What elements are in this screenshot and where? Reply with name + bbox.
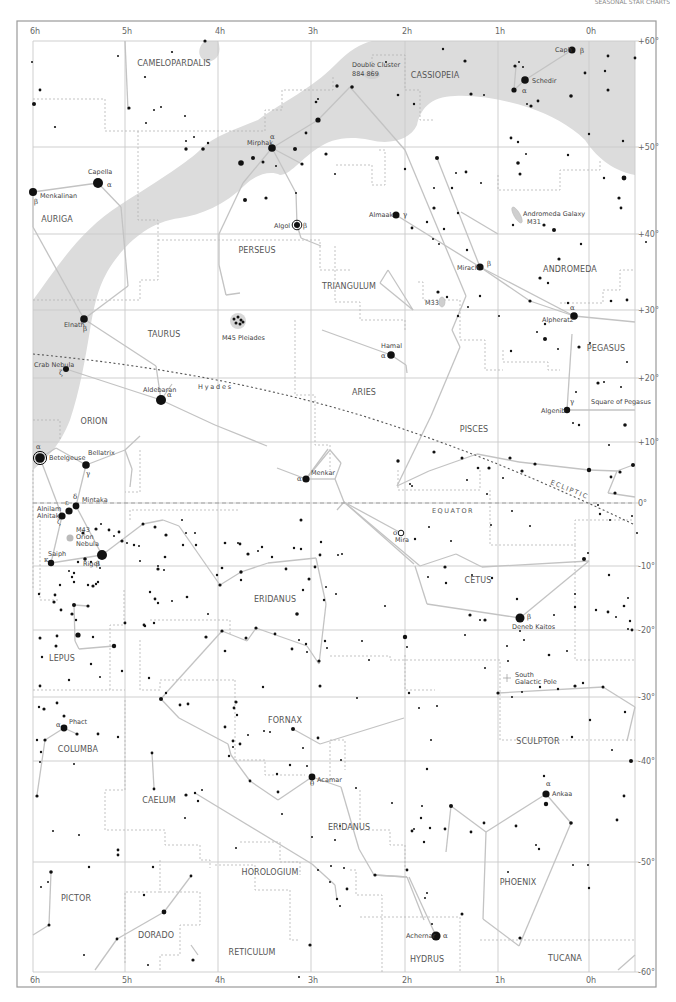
star (411, 485, 413, 487)
star (92, 636, 94, 638)
star (645, 241, 647, 243)
star (113, 535, 115, 537)
star (203, 39, 206, 42)
star (496, 691, 499, 694)
star (510, 137, 513, 140)
star (73, 581, 75, 583)
star (70, 612, 73, 615)
constellation-line (608, 471, 617, 493)
star (77, 561, 79, 563)
star (340, 759, 342, 761)
star (224, 650, 227, 653)
star (403, 635, 407, 639)
star (224, 542, 227, 545)
star (142, 523, 145, 526)
star (613, 491, 616, 494)
star (631, 515, 633, 517)
star (171, 51, 173, 53)
constellation-name: PICTOR (61, 894, 91, 903)
star (139, 560, 141, 562)
star (451, 187, 453, 189)
star (157, 602, 159, 604)
star (320, 541, 322, 543)
star (543, 337, 547, 341)
star (319, 685, 322, 688)
star (547, 282, 549, 284)
star (78, 834, 80, 836)
named-star: Alnitakζ (37, 512, 66, 526)
star (498, 315, 500, 317)
star (384, 605, 386, 607)
ra-label-bottom: 0h (586, 976, 596, 985)
dec-label: -10° (638, 562, 655, 571)
star (517, 141, 519, 143)
star (232, 746, 234, 748)
constellation-line (396, 215, 480, 267)
star (39, 89, 42, 92)
constellation-name: COLUMBA (58, 745, 99, 754)
star (238, 160, 244, 166)
star (442, 48, 444, 50)
star (466, 249, 468, 251)
star (567, 154, 569, 156)
star (239, 570, 242, 573)
constellation-line (179, 718, 228, 744)
star (397, 94, 400, 97)
star (194, 532, 196, 534)
star (595, 609, 597, 611)
constellation-name: CAMELOPARDALIS (137, 59, 211, 68)
constellation-line (268, 558, 316, 563)
constellation-name: PERSEUS (238, 246, 275, 255)
star (184, 793, 187, 796)
constellation-name: ARIES (352, 388, 376, 397)
deep-sky-object: M43OrionNebula (67, 526, 99, 548)
star (163, 569, 165, 571)
star (295, 192, 297, 194)
star (97, 733, 100, 736)
star (90, 663, 92, 665)
star (116, 938, 119, 941)
constellation-name: ERIDANUS (328, 823, 370, 832)
star (450, 540, 452, 542)
constellation-boundary (105, 700, 135, 830)
star (516, 161, 520, 165)
constellation-line (130, 469, 132, 487)
star (465, 171, 468, 174)
star (289, 764, 291, 766)
star (127, 106, 130, 109)
star (171, 600, 173, 602)
star (433, 187, 435, 189)
star (461, 457, 464, 460)
bayer-letter: α (570, 304, 575, 312)
star (618, 470, 621, 473)
star (235, 322, 238, 325)
star (237, 316, 240, 319)
star (300, 519, 303, 522)
star-icon (542, 790, 549, 797)
star (118, 531, 121, 534)
star (224, 726, 227, 729)
star (97, 581, 99, 583)
star-name-label: Capella (88, 168, 112, 176)
ra-label-top: 1h (495, 27, 505, 36)
constellation-boundary (130, 510, 240, 520)
constellation-line (341, 787, 359, 849)
constellation-line (397, 471, 429, 486)
star (324, 152, 327, 155)
star (329, 881, 331, 883)
star-name-label: Mirach (457, 264, 479, 272)
named-star: Ankaaα (542, 780, 572, 798)
star (409, 483, 411, 485)
bayer-letter: β (83, 325, 87, 333)
star (484, 667, 486, 669)
star (319, 554, 322, 557)
star (536, 331, 538, 333)
star (308, 943, 311, 946)
ra-label-bottom: 5h (122, 976, 132, 985)
star (432, 238, 434, 240)
constellation-line (156, 366, 161, 400)
deep-sky-object: Hyades (198, 383, 233, 391)
star (627, 628, 629, 630)
star-name-label: Almaak (369, 211, 394, 219)
constellation-line (179, 526, 220, 585)
